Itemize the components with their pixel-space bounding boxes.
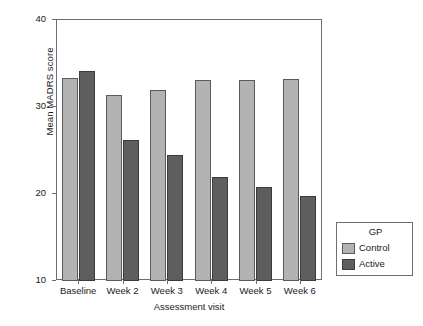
legend-label-active: Active [359, 258, 385, 269]
legend-label-control: Control [359, 242, 390, 253]
x-tick-mark [123, 280, 124, 284]
plot-area [56, 19, 322, 280]
bar-active-week-5 [256, 187, 272, 281]
bar-active-week-2 [123, 140, 139, 281]
bar-active-week-4 [212, 177, 228, 281]
x-tick-mark [167, 280, 168, 284]
x-axis-title: Assessment visit [56, 301, 322, 312]
x-tick-mark [211, 280, 212, 284]
x-tick-mark [256, 280, 257, 284]
y-tick-mark [52, 280, 56, 281]
legend-swatch-active-icon [342, 259, 355, 270]
bar-control-week-4 [195, 80, 211, 281]
bar-active-week-6 [300, 196, 316, 281]
y-tick-label: 20 [20, 187, 46, 198]
x-tick-label: Week 6 [270, 285, 330, 296]
bar-control-week-6 [283, 79, 299, 281]
bar-control-baseline [62, 78, 78, 281]
bar-active-baseline [79, 71, 95, 281]
bar-control-week-5 [239, 80, 255, 281]
y-axis-title: Mean MADRS score [44, 12, 55, 172]
chart-figure: Mean MADRS score 10203040 BaselineWeek 2… [0, 0, 423, 326]
bar-active-week-3 [167, 155, 183, 281]
bar-control-week-2 [106, 95, 122, 281]
y-tick-label: 10 [20, 274, 46, 285]
bar-control-week-3 [150, 90, 166, 281]
legend-swatch-control-icon [342, 243, 355, 254]
legend-title: GP [337, 226, 414, 237]
y-tick-label: 40 [20, 13, 46, 24]
legend: GP Control Active [336, 222, 413, 276]
x-tick-mark [300, 280, 301, 284]
x-tick-mark [78, 280, 79, 284]
y-tick-label: 30 [20, 100, 46, 111]
